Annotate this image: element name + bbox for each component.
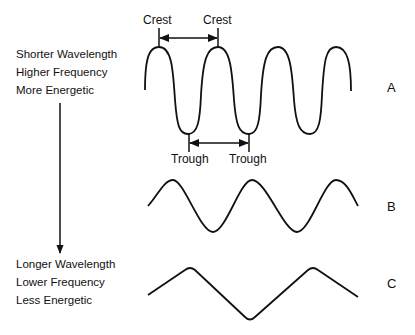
wave-label-b: B [387, 199, 396, 214]
bottom-description-line: Longer Wavelength [16, 257, 115, 271]
wave-a [145, 47, 351, 134]
trough-label-right: Trough [229, 152, 267, 166]
wave-c [148, 268, 358, 320]
wave-label-c: C [387, 276, 396, 291]
bottom-description-line: Lower Frequency [16, 275, 105, 289]
wave-label-a: A [387, 80, 396, 95]
top-description-line: Shorter Wavelength [16, 47, 117, 61]
top-description-line: More Energetic [16, 83, 94, 97]
wave-b [148, 180, 358, 232]
crest-label-left: Crest [143, 13, 172, 27]
trough-label-left: Trough [171, 152, 209, 166]
crest-label-right: Crest [203, 13, 232, 27]
bottom-description-line: Less Energetic [16, 293, 92, 307]
top-description-line: Higher Frequency [16, 65, 107, 79]
